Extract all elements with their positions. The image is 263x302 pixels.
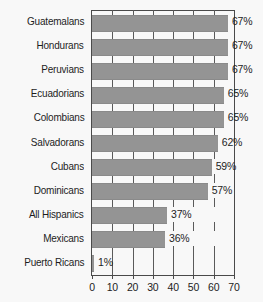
bar-value-label: 67% <box>232 63 252 75</box>
category-label: Peruvians <box>41 63 84 75</box>
category-label: Dominicans <box>34 184 84 196</box>
plot-area: 67%67%67%65%65%62%59%57%37%36%1% <box>92 10 234 275</box>
x-tick-mark <box>153 275 154 279</box>
category-label: Hondurans <box>37 39 84 51</box>
bar <box>92 15 228 32</box>
gridline <box>214 255 215 275</box>
bar-value-label: 62% <box>222 136 242 148</box>
gridline <box>133 255 134 275</box>
x-tick-mark <box>193 275 194 279</box>
gridline <box>214 198 215 207</box>
gridline <box>173 246 174 255</box>
plot-top-border <box>92 10 234 11</box>
bar <box>92 39 228 56</box>
gridline <box>193 222 194 231</box>
bar-value-label: 59% <box>216 160 236 172</box>
gridline <box>173 222 174 231</box>
category-label: Colombians <box>33 111 84 123</box>
bar-value-label: 65% <box>228 111 248 123</box>
x-tick-label: 70 <box>222 281 246 293</box>
x-tick-mark <box>92 275 93 279</box>
bar-value-label: 67% <box>232 39 252 51</box>
x-tick-mark <box>112 275 113 279</box>
bar <box>92 63 228 80</box>
bar-value-label: 65% <box>228 87 248 99</box>
gridline <box>153 255 154 275</box>
x-tick-mark <box>214 275 215 279</box>
bar <box>92 87 224 104</box>
bar-value-label: 1% <box>98 256 113 268</box>
category-label: Puerto Ricans <box>24 256 84 268</box>
bar-value-label: 57% <box>212 184 232 196</box>
gridline <box>173 255 174 275</box>
category-label: Salvadorans <box>31 136 84 148</box>
x-tick-mark <box>133 275 134 279</box>
bar <box>92 183 208 200</box>
x-tick-mark <box>234 275 235 279</box>
x-tick-mark <box>173 275 174 279</box>
bar <box>92 231 165 248</box>
gridline <box>193 246 194 255</box>
category-label: All Hispanics <box>29 208 84 220</box>
bar <box>92 255 94 272</box>
bar-chart: Guatemalans Hondurans Peruvians Ecuadori… <box>0 0 263 302</box>
bar-value-label: 67% <box>232 15 252 27</box>
bar-value-label: 36% <box>169 232 189 244</box>
bar <box>92 207 167 224</box>
gridline <box>214 222 215 231</box>
bar-value-label: 37% <box>171 208 191 220</box>
category-label: Cubans <box>51 160 84 172</box>
category-label: Ecuadorians <box>31 87 84 99</box>
bar <box>92 159 212 176</box>
gridline <box>214 174 215 183</box>
bar <box>92 135 218 152</box>
gridline <box>214 246 215 255</box>
bar <box>92 111 224 128</box>
gridline <box>193 255 194 275</box>
category-label: Guatemalans <box>27 15 84 27</box>
category-label: Mexicans <box>43 232 84 244</box>
